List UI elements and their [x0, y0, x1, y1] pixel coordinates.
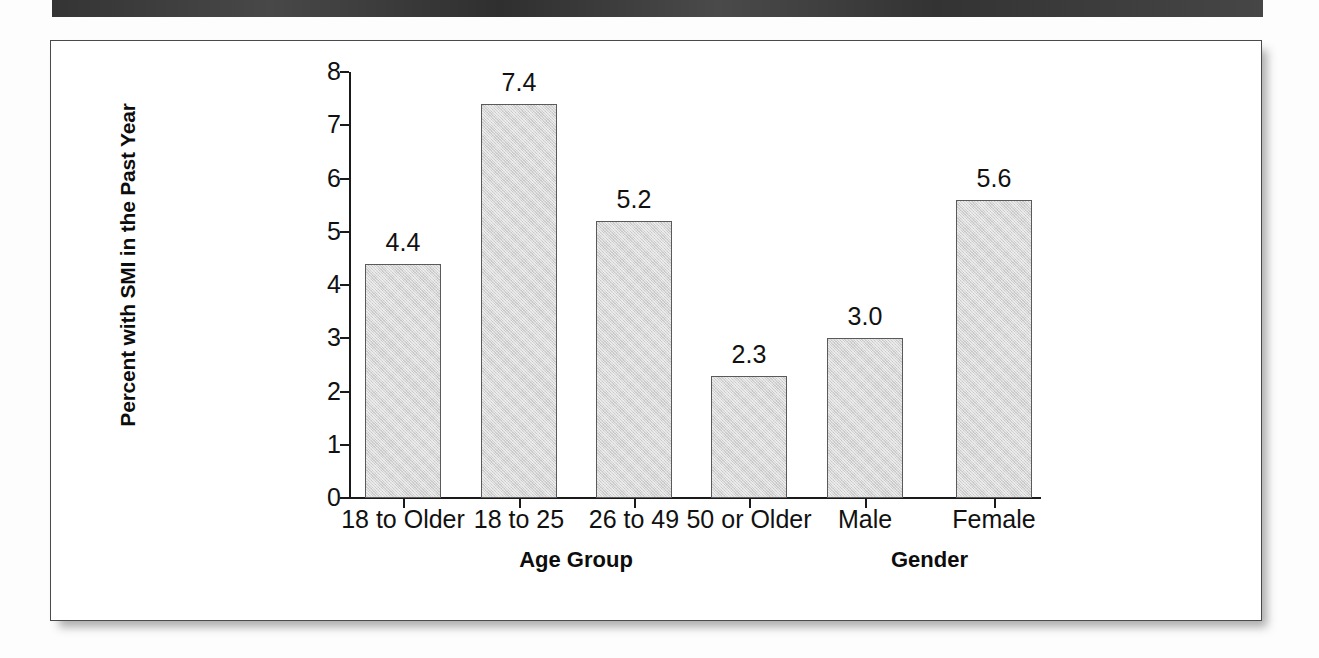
- y-tick-label: 8: [301, 59, 341, 84]
- bar-value-label: 4.4: [358, 230, 448, 255]
- bar: [596, 221, 672, 498]
- bar: [827, 338, 903, 498]
- page-header-bar: [52, 0, 1263, 17]
- x-axis-line: [341, 497, 1041, 499]
- bar-value-label: 5.6: [949, 166, 1039, 191]
- figure-frame: Percent with SMI in the Past Year 012345…: [50, 40, 1262, 621]
- y-tick-mark: [340, 337, 349, 339]
- bar: [365, 264, 441, 498]
- bar-value-label: 2.3: [704, 342, 794, 367]
- category-label: Female: [904, 507, 1084, 532]
- y-tick-mark: [340, 71, 349, 73]
- bar-chart-plot: Percent with SMI in the Past Year 012345…: [51, 41, 1263, 622]
- bar-value-label: 3.0: [820, 304, 910, 329]
- y-axis-title: Percent with SMI in the Past Year: [116, 75, 140, 455]
- bar: [481, 104, 557, 498]
- y-tick-label: 2: [301, 379, 341, 404]
- y-tick-mark: [340, 391, 349, 393]
- bar: [711, 376, 787, 498]
- y-tick-label: 5: [301, 219, 341, 244]
- y-tick-mark: [340, 284, 349, 286]
- group-label: Gender: [810, 549, 1050, 571]
- y-tick-mark: [340, 178, 349, 180]
- y-tick-mark: [340, 124, 349, 126]
- y-tick-mark: [340, 497, 349, 499]
- y-tick-label: 4: [301, 272, 341, 297]
- y-tick-label: 1: [301, 432, 341, 457]
- bar-value-label: 7.4: [474, 70, 564, 95]
- y-tick-mark: [340, 231, 349, 233]
- y-tick-label: 7: [301, 112, 341, 137]
- y-tick-label: 3: [301, 325, 341, 350]
- bar: [956, 200, 1032, 498]
- y-tick-mark: [340, 444, 349, 446]
- group-label: Age Group: [456, 549, 696, 571]
- y-tick-label: 6: [301, 166, 341, 191]
- bar-value-label: 5.2: [589, 187, 679, 212]
- y-axis-line: [349, 72, 351, 499]
